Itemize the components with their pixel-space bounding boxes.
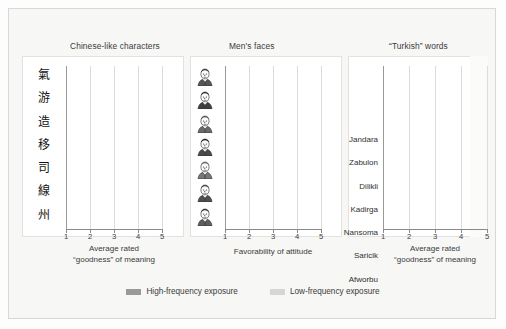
axis-tick-label: 3 bbox=[266, 232, 280, 241]
bar-low bbox=[66, 137, 112, 143]
turkish-word-label: Kadirga bbox=[322, 205, 378, 214]
axis-tick-label: 4 bbox=[290, 232, 304, 241]
axis-tick-label: 5 bbox=[480, 232, 494, 241]
bar-row bbox=[66, 207, 162, 227]
bar-low bbox=[383, 67, 457, 73]
chart-legend: High-frequency exposureLow-frequency exp… bbox=[0, 287, 506, 296]
axis-tick-label: 1 bbox=[218, 232, 232, 241]
axis-tick-label: 2 bbox=[242, 232, 256, 241]
bar-low bbox=[66, 90, 114, 96]
bar-row bbox=[66, 114, 162, 134]
mans-face-icon bbox=[192, 90, 222, 110]
axis-tick-label: 4 bbox=[131, 232, 145, 241]
bar-row bbox=[225, 183, 321, 203]
legend-label: High-frequency exposure bbox=[146, 287, 237, 296]
mans-face-icon bbox=[192, 114, 222, 134]
turkish-word-label: Afworbu bbox=[322, 275, 378, 284]
bar-row bbox=[225, 114, 321, 134]
bar-row bbox=[383, 183, 487, 203]
mans-face-icon bbox=[192, 67, 222, 87]
plot-area-turkish bbox=[383, 66, 487, 229]
bar-row bbox=[66, 67, 162, 87]
bar-low bbox=[383, 90, 432, 96]
axis-tick-label: 4 bbox=[454, 232, 468, 241]
bar-row bbox=[225, 67, 321, 87]
bar-low bbox=[66, 114, 76, 120]
bar-low bbox=[383, 114, 430, 120]
legend-item: Low-frequency exposure bbox=[270, 287, 380, 296]
bar-low bbox=[225, 67, 266, 73]
axis-tick-label: 3 bbox=[107, 232, 121, 241]
x-axis-label-chinese: Average rated “goodness” of meaning bbox=[66, 244, 162, 265]
category-labels-turkish: JandaraZabulonDilikliKadirgaNansomaSaric… bbox=[320, 66, 378, 229]
bar-row bbox=[66, 183, 162, 203]
bar-low bbox=[66, 160, 102, 166]
bar-low bbox=[66, 67, 124, 73]
turkish-word-label: Zabulon bbox=[322, 158, 378, 167]
turkish-word-label: Jandara bbox=[322, 135, 378, 144]
x-axis-label-chinese-line2: “goodness” of meaning bbox=[73, 255, 155, 264]
bar-low bbox=[225, 90, 261, 96]
axis-tick-label: 2 bbox=[83, 232, 97, 241]
mans-face-icon bbox=[192, 137, 222, 157]
x-axis-label-faces: Favorability of attitude bbox=[225, 247, 321, 258]
chinese-character-glyph: 游 bbox=[28, 88, 60, 105]
legend-label: Low-frequency exposure bbox=[290, 287, 380, 296]
bar-low bbox=[225, 137, 266, 143]
panel-title-chinese: Chinese-like characters bbox=[70, 41, 160, 51]
axis-tick-label: 3 bbox=[428, 232, 442, 241]
bar-row bbox=[383, 207, 487, 227]
legend-item: High-frequency exposure bbox=[126, 287, 237, 296]
bar-low bbox=[66, 207, 104, 213]
bar-low bbox=[383, 160, 427, 166]
bar-row bbox=[383, 90, 487, 110]
chinese-character-glyph: 造 bbox=[28, 112, 60, 129]
bar-low bbox=[225, 160, 261, 166]
bar-low bbox=[66, 183, 100, 189]
x-axis-label-turkish: Average rated “goodness” of meaning bbox=[383, 244, 487, 265]
gridline bbox=[487, 66, 488, 229]
bar-row bbox=[225, 207, 321, 227]
bar-row bbox=[383, 160, 487, 180]
x-axis-label-turkish-line2: “goodness” of meaning bbox=[394, 255, 476, 264]
axis-tick-label: 5 bbox=[314, 232, 328, 241]
bar-row bbox=[225, 90, 321, 110]
x-axis-label-chinese-line1: Average rated bbox=[89, 244, 139, 253]
x-axis-label-faces-line1: Favorability of attitude bbox=[234, 247, 312, 256]
axis-tick-label: 5 bbox=[155, 232, 169, 241]
mans-face-icon bbox=[192, 160, 222, 180]
bar-row bbox=[383, 114, 487, 134]
bar-low bbox=[225, 114, 266, 120]
x-axis-label-turkish-line1: Average rated bbox=[410, 244, 460, 253]
turkish-word-label: Saricik bbox=[322, 251, 378, 260]
gridline bbox=[321, 66, 322, 229]
bar-low bbox=[383, 207, 410, 213]
legend-swatch-low bbox=[270, 289, 285, 295]
bar-row bbox=[66, 160, 162, 180]
chinese-character-glyph: 州 bbox=[28, 205, 60, 222]
axis-tick-label: 2 bbox=[402, 232, 416, 241]
bar-row bbox=[66, 137, 162, 157]
bar-low bbox=[225, 207, 244, 213]
figure-canvas: Chinese-like characters Men's faces “Tur… bbox=[0, 0, 506, 329]
mans-face-icon bbox=[192, 183, 222, 203]
chinese-character-glyph: 氣 bbox=[28, 65, 60, 82]
bar-row bbox=[225, 160, 321, 180]
chinese-character-glyph: 線 bbox=[28, 181, 60, 198]
gridline bbox=[162, 66, 163, 229]
bar-low bbox=[383, 183, 412, 189]
turkish-word-label: Nansoma bbox=[322, 228, 378, 237]
bar-row bbox=[383, 67, 487, 87]
panel-title-turkish: “Turkish” words bbox=[389, 41, 448, 51]
plot-area-chinese bbox=[66, 66, 162, 229]
legend-swatch-high bbox=[126, 289, 141, 295]
chinese-character-glyph: 移 bbox=[28, 135, 60, 152]
axis-tick-label: 1 bbox=[376, 232, 390, 241]
bar-low bbox=[383, 137, 422, 143]
chinese-character-glyph: 司 bbox=[28, 158, 60, 175]
mans-face-icon bbox=[192, 207, 222, 227]
bar-row bbox=[225, 137, 321, 157]
bar-row bbox=[66, 90, 162, 110]
panel-title-faces: Men's faces bbox=[229, 41, 275, 51]
plot-area-faces bbox=[225, 66, 321, 229]
